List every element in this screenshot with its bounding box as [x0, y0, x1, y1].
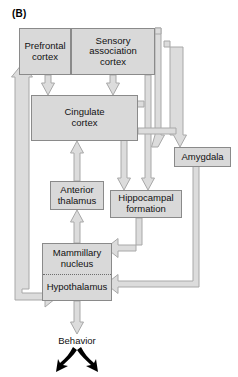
figure-panel: (B) Prefrontal: [0, 0, 238, 377]
node-anterior-thalamus-line1: Anterior: [60, 185, 93, 196]
node-hypothalamus[interactable]: Hypothalamus: [43, 274, 111, 300]
node-cingulate-line2: cortex: [72, 118, 98, 129]
node-prefrontal-cortex-line2: cortex: [32, 52, 58, 63]
node-hippocampal-formation[interactable]: Hippocampal formation: [110, 190, 182, 218]
behavior-branch-left-arrow: [56, 347, 77, 372]
node-mammillary-hypothalamus-stack: Mammillary nucleus Hypothalamus: [42, 243, 112, 301]
edge-anterior-thalamus-to-cingulate: [71, 141, 84, 181]
node-cingulate-cortex[interactable]: Cingulate cortex: [31, 95, 138, 141]
node-behavior: Behavior: [47, 335, 107, 346]
edge-mammillary-to-anterior-thalamus: [71, 210, 84, 243]
edge-hypothalamus-to-behavior: [71, 301, 84, 334]
node-sensory-line3: cortex: [100, 57, 126, 68]
node-sensory-association-cortex[interactable]: Sensory association cortex: [71, 28, 155, 75]
node-hippocampal-line2: formation: [126, 204, 166, 215]
edge-sensory-to-cingulate: [107, 75, 120, 95]
edge-prefrontal-to-amygdala-elbow: [155, 28, 161, 34]
node-prefrontal-cortex-line1: Prefrontal: [24, 41, 65, 52]
node-amygdala[interactable]: Amygdala: [174, 147, 231, 167]
node-mammillary-nucleus[interactable]: Mammillary nucleus: [43, 244, 111, 274]
edge-prefrontal-to-cingulate: [42, 75, 55, 95]
node-amygdala-line1: Amygdala: [181, 152, 223, 163]
node-prefrontal-cortex[interactable]: Prefrontal cortex: [19, 28, 71, 75]
node-mammillary-line2: nucleus: [61, 259, 94, 270]
behavior-branch-right-arrow: [77, 347, 98, 372]
node-behavior-label: Behavior: [58, 335, 96, 346]
node-anterior-thalamus-line2: thalamus: [58, 196, 97, 207]
node-hypothalamus-line1: Hypothalamus: [47, 282, 108, 293]
node-anterior-thalamus[interactable]: Anterior thalamus: [50, 181, 104, 210]
edge-cingulate-to-amygdala: [138, 128, 176, 134]
